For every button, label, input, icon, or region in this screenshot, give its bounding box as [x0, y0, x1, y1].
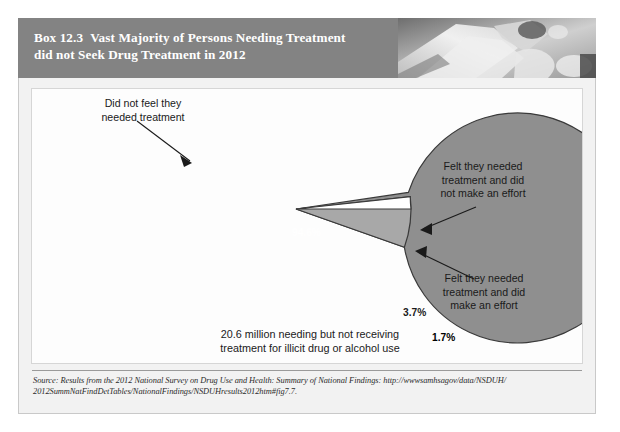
box-title-line2: did not Seek Drug Treatment in 2012 [34, 47, 246, 62]
pie-value-label-main: 94.6% [292, 227, 321, 238]
arrowhead-did-not-feel [180, 155, 192, 167]
box-title-number: Box 12.3 [34, 30, 83, 45]
pie-chart [32, 89, 582, 363]
annotation-did-not-feel: Did not feel they needed treatment [78, 97, 208, 124]
box-title-line1: Vast Majority of Persons Needing Treatme… [90, 30, 345, 45]
annotation-effort: Felt they needed treatment and did make … [414, 272, 554, 313]
chart-caption: 20.6 million needing but not receiving t… [150, 327, 470, 355]
source-divider [32, 370, 582, 371]
figure-page: Box 12.3Vast Majority of Persons Needing… [0, 0, 620, 432]
header-photo [398, 18, 596, 78]
source-line-1: Source: Results from the 2012 National S… [33, 376, 506, 385]
box-title: Box 12.3Vast Majority of Persons Needing… [34, 29, 394, 63]
pie-slice-effort [296, 197, 411, 209]
source-line-2: 2012SummNatFindDetTables/NationalFinding… [33, 387, 297, 396]
box-title-bar: Box 12.3Vast Majority of Persons Needing… [18, 18, 596, 78]
source-note: Source: Results from the 2012 National S… [33, 375, 581, 397]
leader-line-did-not-feel [137, 121, 190, 161]
chart-panel: 94.6% 3.7% 1.7% [31, 88, 583, 364]
annotation-no-effort: Felt they needed treatment and did not m… [413, 160, 553, 201]
